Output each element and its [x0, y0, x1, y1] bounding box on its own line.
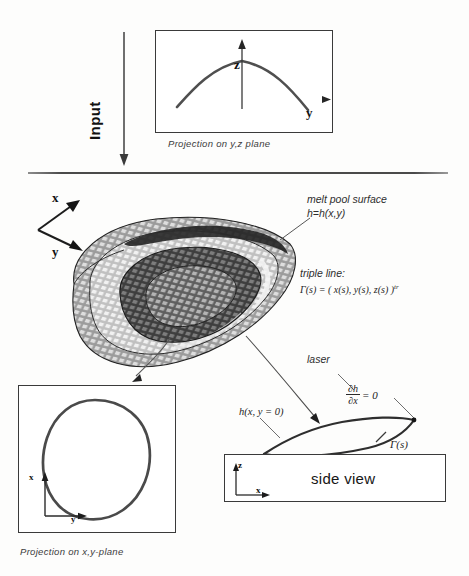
input-arrow-icon [112, 32, 136, 168]
top-panel-y-axis-label: y [306, 105, 313, 121]
slope-condition-equals: = 0 [362, 389, 378, 401]
side-view-title: side view [311, 470, 375, 487]
section-divider [28, 172, 448, 174]
input-flow-group: Input [78, 28, 148, 168]
xy-projection-plot [19, 386, 175, 532]
slope-condition-denominator: ∂x [346, 394, 360, 406]
xy-projection-panel: x y [18, 385, 176, 533]
laser-label: laser [307, 352, 330, 366]
xy-panel-y-axis-label: y [71, 514, 76, 524]
side-view-z-axis-label: z [238, 460, 242, 470]
top-panel-caption: Projection on y,z plane [168, 138, 270, 149]
triple-line-point-label: Γ(s) [390, 438, 408, 450]
xy-projection-leader-line [118, 336, 178, 398]
main-view-y-axis-label: y [52, 244, 59, 260]
side-view-x-axis-label: x [256, 485, 261, 495]
side-view-group: laser ∂h ∂x = 0 h(x, y = 0) Γ(s) z x [218, 336, 464, 506]
melt-pool-surface-leader-line [278, 216, 312, 242]
main-view-x-axis-label: x [52, 190, 59, 206]
melt-pool-surface-line1: melt pool surface [307, 192, 387, 206]
triple-line-equation-body: Γ(s) = ( x(s), y(s), z(s) ) [300, 284, 394, 295]
melt-pool-surface-annotation: melt pool surface h=h(x,y) [307, 192, 387, 220]
melt-pool-surface-line2: h=h(x,y) [307, 206, 387, 220]
top-panel-z-axis-label: z [234, 57, 240, 73]
height-profile-label: h(x, y = 0) [239, 406, 283, 417]
slope-condition-numerator: ∂h [346, 384, 360, 394]
triple-line-title: triple line: [300, 266, 399, 280]
main-axes-icon [26, 190, 122, 262]
slope-condition-annotation: ∂h ∂x = 0 [346, 384, 378, 406]
figure-canvas: Input z y Projection on y,z plane [0, 0, 469, 576]
triple-line-annotation: triple line: Γ(s) = ( x(s), y(s), z(s) )… [300, 266, 399, 295]
side-view-profile [218, 336, 464, 468]
main-view-axes: x y [26, 190, 122, 262]
xy-panel-caption: Projection on x,y-plane [20, 546, 124, 557]
triple-line-equation: Γ(s) = ( x(s), y(s), z(s) )tr [300, 283, 399, 295]
side-view-axes-icon [228, 457, 282, 501]
xy-panel-x-axis-label: x [29, 472, 34, 482]
triple-line-equation-sup: tr [394, 283, 399, 291]
top-projection-panel: z y [155, 30, 333, 133]
input-label: Input [86, 101, 103, 140]
slope-condition-fraction: ∂h ∂x [346, 384, 360, 406]
side-view-box: z x side view [224, 454, 446, 502]
